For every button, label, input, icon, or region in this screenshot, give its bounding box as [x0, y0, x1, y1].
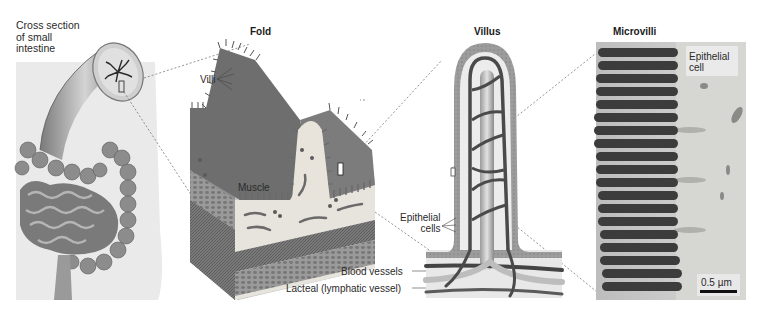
- muscle-label: Muscle: [238, 182, 270, 193]
- microvilli-panel: [594, 42, 746, 300]
- scale-bar-label: 0.5 µm: [701, 277, 732, 288]
- villus-panel: [426, 43, 562, 298]
- blood-vessels-label: Blood vessels: [341, 266, 403, 277]
- epithelial-cells-label: Epithelial cells: [400, 212, 441, 234]
- cross-section-panel: [15, 35, 162, 300]
- lacteal-label: Lacteal (lymphatic vessel): [286, 283, 401, 294]
- villi-label: Villi: [200, 74, 215, 85]
- epithelial-cell-label: Epithelial cell: [689, 51, 730, 73]
